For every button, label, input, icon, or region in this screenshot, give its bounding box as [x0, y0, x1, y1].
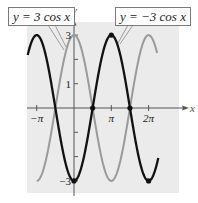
callout-3cos: y = 3 cos x — [8, 7, 75, 26]
x-axis-arrow-icon — [182, 106, 189, 111]
x-axis-label: x — [189, 102, 195, 114]
marked-point — [90, 105, 95, 110]
callout-neg3cos: y = −3 cos x — [115, 7, 191, 26]
y-tick-label: −3 — [59, 175, 71, 187]
marked-point — [146, 178, 151, 183]
marked-point — [109, 33, 114, 38]
callout-neg3cos-text: y = −3 cos x — [120, 9, 186, 24]
y-tick-label: 1 — [66, 78, 72, 90]
marked-point — [127, 105, 132, 110]
callout-3cos-text: y = 3 cos x — [13, 9, 70, 24]
x-tick-label: −π — [30, 112, 43, 124]
cosine-chart: −ππ2π31−3xy — [0, 0, 198, 203]
x-tick-label: 2π — [143, 112, 155, 124]
y-tick-label: 3 — [66, 29, 72, 41]
marked-point — [71, 178, 76, 183]
x-tick-label: π — [109, 112, 115, 124]
